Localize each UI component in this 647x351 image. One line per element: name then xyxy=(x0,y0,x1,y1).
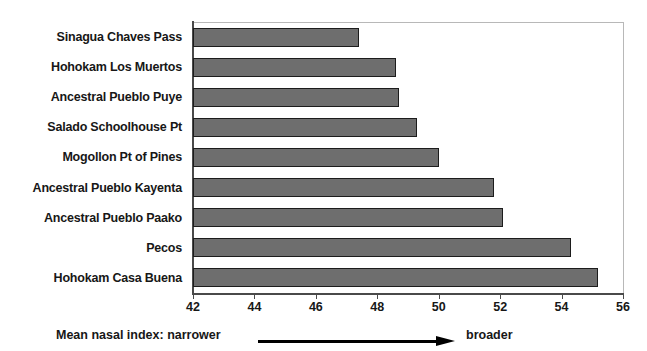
x-tick-label: 48 xyxy=(370,300,384,314)
x-tick-mark xyxy=(623,293,624,299)
category-label: Hohokam Casa Buena xyxy=(54,271,182,285)
category-label-row: Ancestral Pueblo Paako xyxy=(0,203,188,233)
bar-row xyxy=(193,263,598,293)
x-tick-mark xyxy=(316,293,317,299)
bar[interactable] xyxy=(193,178,494,197)
category-label-row: Mogollon Pt of Pines xyxy=(0,142,188,172)
category-label-row: Salado Schoolhouse Pt xyxy=(0,112,188,142)
x-tick-label: 46 xyxy=(309,300,323,314)
category-label: Mogollon Pt of Pines xyxy=(62,150,182,164)
bar[interactable] xyxy=(193,28,359,47)
right-arrow-icon xyxy=(258,337,455,347)
category-label-row: Hohokam Casa Buena xyxy=(0,263,188,293)
category-label-row: Pecos xyxy=(0,233,188,263)
bar[interactable] xyxy=(193,208,503,227)
arrow-head xyxy=(436,336,455,346)
bar-chart-figure: Sinagua Chaves Pass Hohokam Los Muertos … xyxy=(0,0,647,351)
x-tick-label: 42 xyxy=(186,300,200,314)
bar[interactable] xyxy=(193,58,396,77)
bar[interactable] xyxy=(193,118,417,137)
category-label: Hohokam Los Muertos xyxy=(51,60,182,74)
x-tick-mark xyxy=(562,293,563,299)
bar-row xyxy=(193,142,439,172)
category-axis-labels: Sinagua Chaves Pass Hohokam Los Muertos … xyxy=(0,22,188,293)
category-label-row: Ancestral Pueblo Puye xyxy=(0,82,188,112)
arrow-shaft xyxy=(258,340,438,343)
category-label-row: Sinagua Chaves Pass xyxy=(0,22,188,52)
bar[interactable] xyxy=(193,88,399,107)
bar-row xyxy=(193,52,396,82)
x-tick-mark xyxy=(439,293,440,299)
bar-row xyxy=(193,233,571,263)
x-tick-mark xyxy=(500,293,501,299)
x-tick-mark xyxy=(377,293,378,299)
x-tick-mark xyxy=(254,293,255,299)
bar[interactable] xyxy=(193,238,571,257)
axis-caption: Mean nasal index: narrower broader xyxy=(0,326,647,351)
bar-row xyxy=(193,173,494,203)
x-tick-label: 50 xyxy=(432,300,446,314)
bar-row xyxy=(193,22,359,52)
category-label: Ancestral Pueblo Paako xyxy=(44,211,182,225)
x-tick-label: 56 xyxy=(616,300,630,314)
bar-row xyxy=(193,203,503,233)
category-label-row: Hohokam Los Muertos xyxy=(0,52,188,82)
caption-right-text: broader xyxy=(466,328,513,342)
bar-row xyxy=(193,112,417,142)
bar[interactable] xyxy=(193,148,439,167)
category-label: Sinagua Chaves Pass xyxy=(57,30,182,44)
x-axis-line xyxy=(192,293,624,295)
caption-left-text: Mean nasal index: narrower xyxy=(56,328,221,342)
x-tick-label: 52 xyxy=(493,300,507,314)
x-tick-label: 54 xyxy=(555,300,569,314)
category-label-row: Ancestral Pueblo Kayenta xyxy=(0,173,188,203)
bars-layer xyxy=(193,22,623,293)
category-label: Ancestral Pueblo Puye xyxy=(51,90,182,104)
x-tick-mark xyxy=(193,293,194,299)
category-label: Ancestral Pueblo Kayenta xyxy=(33,181,182,195)
x-tick-label: 44 xyxy=(247,300,261,314)
bar[interactable] xyxy=(193,268,598,287)
category-label: Pecos xyxy=(146,241,182,255)
category-label: Salado Schoolhouse Pt xyxy=(47,120,182,134)
bar-row xyxy=(193,82,399,112)
